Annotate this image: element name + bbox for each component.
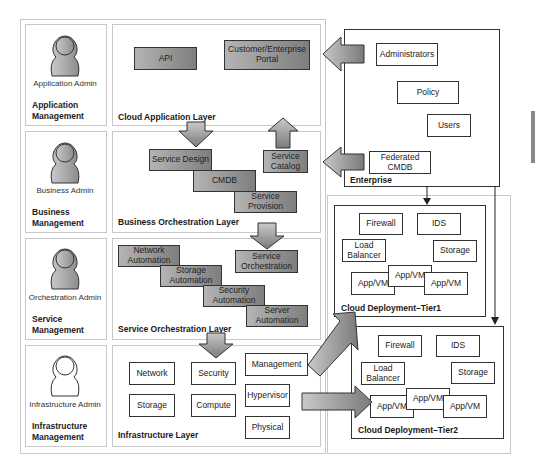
arrow-down-service-to-infra xyxy=(199,333,233,358)
arrow-right-infra-to-tier2 xyxy=(302,386,372,418)
arrow-down-app-to-business xyxy=(179,122,213,147)
arrow-down-business-to-service xyxy=(250,223,284,249)
arrow-up-catalog-to-app xyxy=(268,118,298,148)
arrow-left-enterprise-to-portal xyxy=(323,37,364,71)
arrow-left-cmdb-to-catalog xyxy=(323,147,364,177)
arrow-diagonal-infra-to-tier1 xyxy=(308,312,358,376)
